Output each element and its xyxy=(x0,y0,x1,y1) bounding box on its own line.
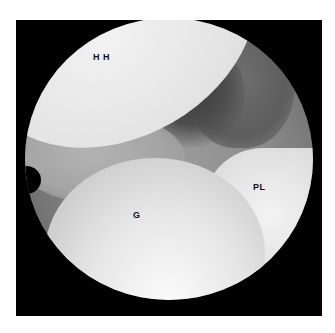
label-biceps-tendon: BT xyxy=(216,66,226,73)
label-posterior-labrum: PL xyxy=(253,182,266,192)
label-glenoid: G xyxy=(133,210,141,220)
label-humeral-head: H H xyxy=(93,52,110,62)
label-anterior-labrum: AL xyxy=(83,139,93,146)
arthroscopy-image-frame xyxy=(16,20,322,316)
label-sgl: SGL xyxy=(157,81,173,88)
arthroscope-circular-view xyxy=(25,20,313,300)
